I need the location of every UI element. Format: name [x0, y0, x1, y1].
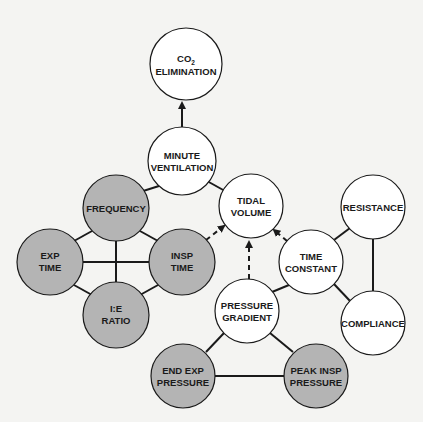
- edge-time-constant-pressure-gradient: [272, 285, 289, 292]
- edge-frequency-exp-time: [74, 231, 92, 241]
- svg-text:TIDAL: TIDAL: [237, 195, 265, 206]
- edge-insp-time-ie-ratio: [140, 285, 158, 295]
- svg-text:FREQUENCY: FREQUENCY: [86, 203, 146, 214]
- node-minute-ventilation: MINUTE VENTILATION: [148, 127, 216, 195]
- edge-pressure-gradient-peak-insp: [270, 333, 293, 352]
- svg-text:PRESSURE: PRESSURE: [221, 300, 273, 311]
- svg-text:TIME: TIME: [300, 251, 323, 262]
- node-tidal-volume: TIDAL VOLUME: [219, 174, 283, 238]
- svg-text:MINUTE: MINUTE: [164, 150, 200, 161]
- edge-time-constant-compliance: [334, 284, 350, 301]
- svg-text:RATIO: RATIO: [102, 315, 131, 326]
- svg-text:EXP: EXP: [40, 250, 60, 261]
- svg-text:PRESSURE: PRESSURE: [290, 377, 342, 388]
- svg-text:COMPLIANCE: COMPLIANCE: [341, 318, 405, 329]
- node-frequency: FREQUENCY: [83, 175, 149, 241]
- svg-text:I:E: I:E: [110, 303, 122, 314]
- node-co2-elimination: CO2 ELIMINATION: [150, 28, 222, 100]
- svg-text:CONSTANT: CONSTANT: [285, 263, 337, 274]
- edge-exp-time-ie-ratio: [74, 285, 92, 295]
- edge-insp-time-to-tidal-volume: [206, 226, 224, 240]
- node-pressure-gradient: PRESSURE GRADIENT: [215, 279, 279, 343]
- svg-text:END EXP: END EXP: [162, 365, 204, 376]
- svg-text:INSP: INSP: [171, 250, 194, 261]
- edge-pressure-gradient-end-exp: [206, 333, 224, 352]
- node-insp-time: INSP TIME: [149, 229, 215, 295]
- svg-text:VOLUME: VOLUME: [231, 207, 272, 218]
- node-exp-time: EXP TIME: [17, 229, 83, 295]
- svg-text:ELIMINATION: ELIMINATION: [155, 66, 216, 77]
- edge-frequency-insp-time: [140, 231, 158, 241]
- ventilation-concept-diagram: CO2 ELIMINATION MINUTE VENTILATION FREQU…: [0, 0, 423, 422]
- edge-mv-tidal-volume: [207, 181, 225, 191]
- node-end-exp-pressure: END EXP PRESSURE: [151, 344, 215, 408]
- node-compliance: COMPLIANCE: [341, 291, 405, 355]
- svg-text:GRADIENT: GRADIENT: [222, 312, 272, 323]
- svg-text:VENTILATION: VENTILATION: [151, 162, 214, 173]
- svg-text:TIME: TIME: [171, 262, 194, 273]
- svg-text:PRESSURE: PRESSURE: [157, 377, 209, 388]
- node-peak-insp-pressure: PEAK INSP PRESSURE: [284, 344, 348, 408]
- svg-text:TIME: TIME: [39, 262, 62, 273]
- node-time-constant: TIME CONSTANT: [279, 230, 343, 294]
- node-ie-ratio: I:E RATIO: [83, 282, 149, 348]
- svg-text:RESISTANCE: RESISTANCE: [343, 202, 404, 213]
- edge-time-constant-resistance: [334, 228, 350, 240]
- edge-time-constant-to-tidal-volume: [274, 230, 287, 241]
- node-resistance: RESISTANCE: [341, 175, 405, 239]
- svg-text:PEAK INSP: PEAK INSP: [290, 365, 342, 376]
